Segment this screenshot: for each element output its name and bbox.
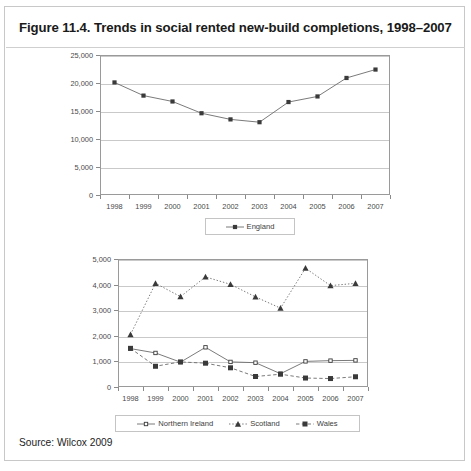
source-note: Source: Wilcox 2009 — [19, 437, 112, 448]
x-axis-tick-label: 2005 — [309, 202, 325, 211]
x-axis-tick-label: 2001 — [197, 394, 213, 403]
series-line-england — [115, 70, 376, 123]
y-axis-tick-label: 4,000 — [93, 280, 112, 289]
legend-england: England — [205, 218, 295, 235]
data-point-marker — [204, 346, 207, 349]
data-point-marker — [252, 294, 258, 300]
y-axis-tick-label: 5,000 — [93, 255, 112, 264]
data-point-marker — [178, 359, 183, 364]
series-line-scotland — [131, 268, 356, 334]
x-axis-tick-label: 2002 — [222, 202, 238, 211]
y-axis-tick-label: 15,000 — [70, 107, 93, 116]
legend-swatch-icon — [296, 420, 314, 428]
x-tick-mark — [187, 195, 188, 199]
x-tick-mark — [243, 387, 244, 391]
data-point-marker — [277, 305, 283, 311]
x-tick-mark — [303, 195, 304, 199]
data-point-marker — [227, 281, 233, 287]
figure-page: Figure 11.4. Trends in social rented new… — [0, 0, 471, 471]
x-axis-tick-label: 2000 — [172, 394, 188, 403]
x-tick-mark — [129, 195, 130, 199]
data-point-marker — [202, 274, 208, 280]
x-tick-mark — [274, 195, 275, 199]
y-tick-mark — [96, 83, 100, 84]
data-point-marker — [199, 111, 203, 115]
x-axis-tick-label: 2002 — [222, 394, 238, 403]
x-axis-tick-label: 1999 — [135, 202, 151, 211]
data-point-marker — [127, 331, 133, 337]
x-axis-tick-label: 2006 — [322, 394, 338, 403]
legend-label: Scotland — [250, 419, 280, 428]
series-layer-nations — [5, 247, 466, 417]
x-tick-mark — [293, 387, 294, 391]
legend-label: Wales — [317, 419, 338, 428]
chart-england: 05,00010,00015,00020,00025,0001998199920… — [5, 43, 466, 213]
legend-item-scotland[interactable]: Scotland — [229, 419, 280, 428]
data-point-marker — [344, 76, 348, 80]
chart-nations: 01,0002,0003,0004,0005,00019981999200020… — [5, 247, 466, 417]
y-axis-tick-label: 5,000 — [75, 163, 94, 172]
data-point-marker — [232, 224, 236, 228]
x-tick-mark — [368, 387, 369, 391]
x-tick-mark — [143, 387, 144, 391]
x-tick-mark — [216, 195, 217, 199]
data-point-marker — [112, 80, 116, 84]
y-axis-tick-label: 2,000 — [93, 331, 112, 340]
data-point-marker — [302, 265, 308, 271]
x-axis-tick-label: 2004 — [272, 394, 288, 403]
data-point-marker — [328, 376, 333, 381]
data-point-marker — [304, 360, 307, 363]
x-axis-tick-label: 2005 — [297, 394, 313, 403]
data-point-marker — [253, 374, 258, 379]
data-point-marker — [373, 67, 377, 71]
x-tick-mark — [118, 387, 119, 391]
legend-item-wales[interactable]: Wales — [296, 419, 338, 428]
y-tick-mark — [114, 361, 118, 362]
y-tick-mark — [114, 336, 118, 337]
series-line-wales — [131, 348, 356, 378]
x-axis-tick-label: 2004 — [280, 202, 296, 211]
data-point-marker — [257, 120, 261, 124]
y-axis-tick-label: 10,000 — [70, 135, 93, 144]
x-axis-tick-label: 2003 — [247, 394, 263, 403]
data-point-marker — [152, 280, 158, 286]
x-axis-tick-label: 1998 — [122, 394, 138, 403]
data-point-marker — [303, 376, 308, 381]
data-point-marker — [354, 359, 357, 362]
data-point-marker — [302, 421, 307, 426]
data-point-marker — [228, 117, 232, 121]
x-axis-tick-label: 2003 — [251, 202, 267, 211]
x-tick-mark — [158, 195, 159, 199]
x-tick-mark — [318, 387, 319, 391]
legend-swatch-icon — [137, 420, 155, 428]
data-point-marker — [177, 294, 183, 300]
y-tick-mark — [96, 55, 100, 56]
y-axis-tick-label: 3,000 — [93, 306, 112, 315]
x-tick-mark — [245, 195, 246, 199]
data-point-marker — [353, 374, 358, 379]
data-point-marker — [128, 346, 133, 351]
legend-swatch-icon — [226, 223, 244, 231]
x-axis-tick-label: 2001 — [193, 202, 209, 211]
figure-container: Figure 11.4. Trends in social rented new… — [4, 6, 465, 461]
data-point-marker — [329, 359, 332, 362]
data-point-marker — [315, 94, 319, 98]
x-tick-mark — [268, 387, 269, 391]
y-tick-mark — [114, 259, 118, 260]
legend-item-england[interactable]: England — [226, 222, 275, 231]
legend-item-northern-ireland[interactable]: Northern Ireland — [137, 419, 213, 428]
data-point-marker — [254, 361, 257, 364]
data-point-marker — [278, 372, 283, 377]
x-axis-tick-label: 2006 — [338, 202, 354, 211]
x-tick-mark — [168, 387, 169, 391]
legend-nations: Northern IrelandScotlandWales — [115, 415, 360, 432]
y-axis-tick-label: 20,000 — [70, 79, 93, 88]
legend-label: Northern Ireland — [158, 419, 213, 428]
data-point-marker — [286, 100, 290, 104]
data-point-marker — [154, 351, 157, 354]
data-point-marker — [352, 280, 358, 286]
x-axis-tick-label: 2007 — [347, 394, 363, 403]
y-tick-mark — [96, 167, 100, 168]
data-point-marker — [153, 364, 158, 369]
data-point-marker — [141, 94, 145, 98]
